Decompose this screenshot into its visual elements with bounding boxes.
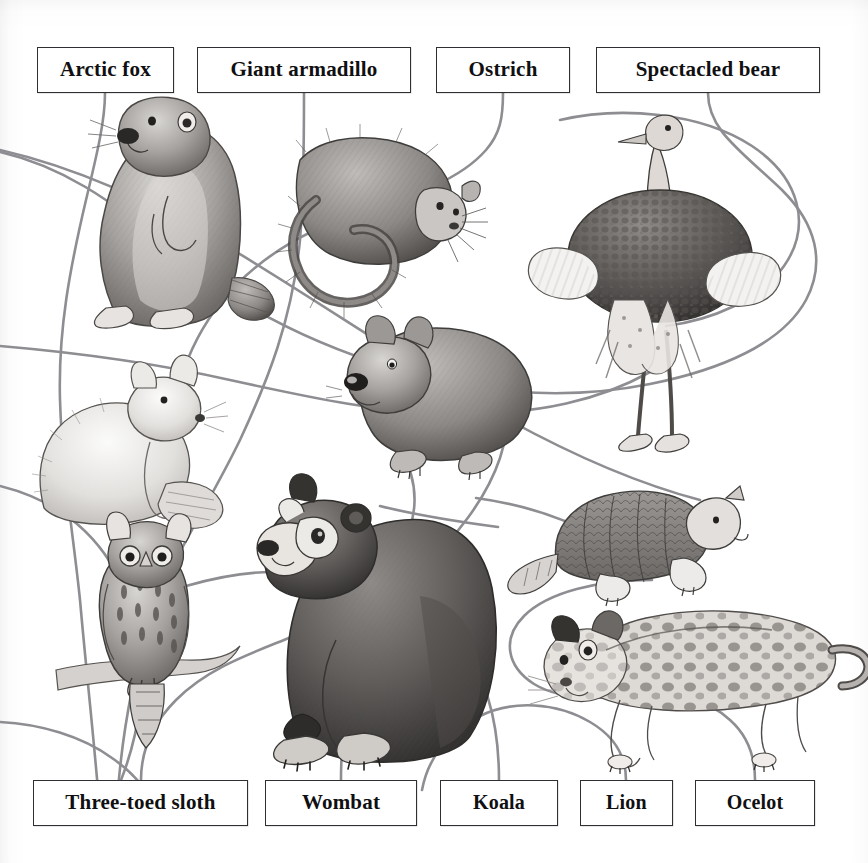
label-box-arctic-fox[interactable]: Arctic fox <box>37 47 174 93</box>
wombat-illustration <box>326 316 532 480</box>
label-box-lion[interactable]: Lion <box>580 780 673 826</box>
label-text-koala: Koala <box>473 792 525 814</box>
horned-owl-illustration <box>56 512 240 748</box>
label-text-arctic-fox: Arctic fox <box>60 59 151 82</box>
label-text-ostrich: Ostrich <box>468 59 537 82</box>
ostrich-illustration <box>528 115 780 452</box>
label-text-lion: Lion <box>606 792 647 814</box>
arctic-fox-illustration <box>32 355 228 528</box>
label-box-wombat[interactable]: Wombat <box>265 780 417 826</box>
standing-marmot-illustration <box>88 97 274 328</box>
animal-illustrations <box>0 0 868 863</box>
label-text-giant-armadillo: Giant armadillo <box>230 59 377 82</box>
label-box-koala[interactable]: Koala <box>440 780 558 826</box>
label-box-ostrich[interactable]: Ostrich <box>436 47 570 93</box>
three-toed-sloth-illustration <box>276 124 488 318</box>
worksheet-page: Arctic fox Giant armadillo Ostrich Spect… <box>0 0 868 863</box>
giant-armadillo-illustration <box>508 486 748 606</box>
label-box-giant-armadillo[interactable]: Giant armadillo <box>197 47 411 93</box>
label-box-ocelot[interactable]: Ocelot <box>695 780 815 826</box>
label-text-three-toed-sloth: Three-toed sloth <box>65 792 215 815</box>
label-text-ocelot: Ocelot <box>727 792 784 814</box>
label-box-three-toed-sloth[interactable]: Three-toed sloth <box>33 780 248 826</box>
spectacled-bear-illustration <box>257 474 496 771</box>
label-text-spectacled-bear: Spectacled bear <box>636 59 781 82</box>
label-box-spectacled-bear[interactable]: Spectacled bear <box>596 47 820 93</box>
ocelot-illustration <box>528 611 868 774</box>
label-text-wombat: Wombat <box>302 792 380 815</box>
